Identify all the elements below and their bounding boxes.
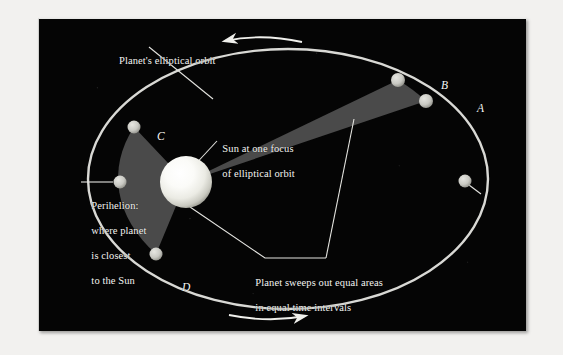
label-sun-line1: Sun at one focus — [222, 143, 293, 154]
label-sweep-line2: in equal time intervals — [255, 302, 351, 313]
orbit-direction-arrow-top — [225, 37, 302, 42]
point-label-c: C — [157, 130, 165, 142]
label-perihelion: Perihelion: where planet is closest to t… — [75, 188, 147, 300]
label-perihelion-line2: where planet — [91, 225, 146, 236]
point-label-d: D — [182, 281, 190, 293]
planet-dot-a[interactable] — [419, 94, 433, 108]
planet-dot-aphelion[interactable] — [459, 175, 472, 188]
label-perihelion-line1: Perihelion: — [91, 200, 138, 211]
label-sun-line2: of elliptical orbit — [222, 168, 294, 179]
planet-dot-d[interactable] — [150, 248, 163, 261]
diagram-page: Planet's elliptical orbit Sun at one foc… — [0, 0, 563, 355]
label-equal-areas: Planet sweeps out equal areas in equal t… — [239, 265, 383, 327]
label-sweep-line1: Planet sweeps out equal areas — [255, 277, 383, 288]
planet-dot-c[interactable] — [128, 121, 141, 134]
diagram-panel: Planet's elliptical orbit Sun at one foc… — [38, 18, 526, 331]
leader-line-sweep-left — [190, 207, 326, 258]
point-label-b: B — [441, 79, 448, 91]
planet-dot-b[interactable] — [391, 73, 405, 87]
planet-dot-perihelion[interactable] — [114, 176, 127, 189]
label-perihelion-line4: to the Sun — [91, 275, 135, 286]
label-perihelion-line3: is closest — [91, 250, 130, 261]
point-label-a: A — [477, 102, 484, 114]
leader-line-sweep-right — [326, 119, 354, 258]
sun-sphere[interactable] — [160, 156, 212, 208]
label-aphelion: Aphelion: where planet is farthest from … — [511, 244, 526, 331]
label-elliptical-orbit: Planet's elliptical orbit — [119, 55, 216, 67]
label-sun-focus: Sun at one focus of elliptical orbit — [206, 131, 295, 193]
